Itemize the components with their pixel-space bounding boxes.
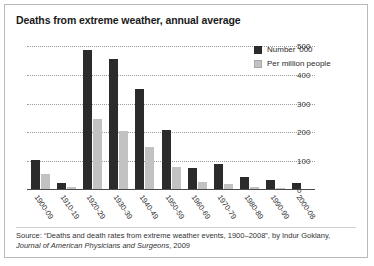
x-axis-labels: 1900-091910-191920-291930-391940-491950-… [27, 191, 315, 235]
x-axis-label-cell: 1960-69 [184, 191, 210, 235]
bar [109, 59, 118, 190]
bar [31, 160, 40, 190]
source-divider [16, 227, 356, 228]
x-axis-label: 1930-39 [111, 193, 134, 221]
x-axis-label: 1900-09 [33, 193, 56, 221]
page-title: Deaths from extreme weather, annual aver… [16, 14, 240, 26]
bar [172, 167, 181, 190]
x-axis-label: 1970-79 [216, 193, 239, 221]
bar-group [27, 46, 53, 190]
bar-group [53, 46, 79, 190]
bar-group [158, 46, 184, 190]
bar [93, 119, 102, 190]
x-axis-label: 1940-49 [137, 193, 160, 221]
x-axis-label: 1950-59 [164, 193, 187, 221]
chart-figure: Deaths from extreme weather, annual aver… [4, 4, 368, 258]
bar-group [106, 46, 132, 190]
x-axis-label: 1960-69 [190, 193, 213, 221]
source-note: Source: “Deaths and death rates from ext… [16, 231, 346, 251]
legend-item-number: Number '000 [254, 45, 331, 54]
source-suffix: , 2009 [169, 241, 190, 250]
x-axis-label-cell: 1910-19 [53, 191, 79, 235]
x-axis-label-cell: 1940-49 [132, 191, 158, 235]
bar-group [79, 46, 105, 190]
x-axis-label: 1990-99 [268, 193, 291, 221]
source-journal: Journal of American Physicians and Surge… [16, 241, 169, 250]
bar-group [184, 46, 210, 190]
axis-baseline [27, 189, 315, 190]
legend-item-per-million: Per million people [254, 59, 331, 68]
x-axis-label-cell: 1970-79 [210, 191, 236, 235]
bar [188, 168, 197, 190]
x-axis-label: 1910-19 [59, 193, 82, 221]
bar [83, 50, 92, 190]
x-axis-label-cell: 1950-59 [158, 191, 184, 235]
source-prefix: Source: “Deaths and death rates from ext… [16, 231, 330, 240]
bar [145, 147, 154, 190]
x-axis-label: 1980-89 [242, 193, 265, 221]
legend-swatch-number-icon [254, 46, 262, 54]
x-axis-label-cell: 1920-29 [79, 191, 105, 235]
x-axis-label-cell: 2000-08 [289, 191, 315, 235]
bar [41, 174, 50, 190]
bar [119, 131, 128, 190]
legend-label-number: Number '000 [267, 45, 313, 54]
x-axis-label-cell: 1980-89 [237, 191, 263, 235]
y-axis-tick-label: 300 [297, 99, 310, 108]
bar-group [210, 46, 236, 190]
x-axis-label-cell: 1900-09 [27, 191, 53, 235]
y-axis-tick-label: 100 [297, 157, 310, 166]
x-axis-label-cell: 1930-39 [106, 191, 132, 235]
x-axis-label: 2000-08 [295, 193, 318, 221]
legend-swatch-per-million-icon [254, 60, 262, 68]
bar [162, 130, 171, 190]
x-axis-label: 1920-29 [85, 193, 108, 221]
legend-label-per-million: Per million people [267, 59, 331, 68]
bar [214, 164, 223, 190]
y-axis-tick-label: 200 [297, 128, 310, 137]
x-axis-label-cell: 1990-99 [263, 191, 289, 235]
chart-legend: Number '000 Per million people [254, 45, 331, 73]
bar [135, 89, 144, 190]
bar-group [132, 46, 158, 190]
